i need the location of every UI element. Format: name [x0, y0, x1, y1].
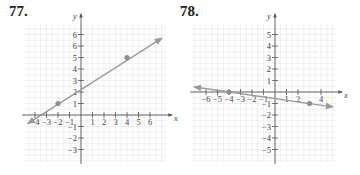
y-tick-label: 2: [267, 64, 271, 74]
y-tick-label: 3: [267, 53, 271, 63]
x-tick-label: −3: [42, 117, 51, 127]
grid: [24, 24, 166, 162]
x-axis-label: x: [343, 90, 348, 100]
x-tick-label: 4: [125, 117, 130, 127]
x-tick-label: 4: [319, 94, 324, 104]
y-tick-label: −3: [68, 145, 77, 155]
y-tick-label: 5: [267, 30, 271, 40]
y-tick-label: −2: [68, 133, 77, 143]
y-tick-label: 1: [73, 99, 77, 109]
y-tick-label: −3: [262, 122, 271, 132]
y-tick-label: 3: [73, 76, 77, 86]
y-tick-label: 6: [73, 30, 77, 40]
y-tick-label: −1: [262, 99, 271, 109]
y-tick-label: 5: [73, 53, 77, 63]
x-tick-label: 6: [148, 117, 152, 127]
data-point: [307, 101, 312, 106]
graph-line: [28, 38, 161, 123]
y-tick-label: −5: [262, 145, 271, 155]
y-axis-label: y: [266, 11, 271, 21]
y-tick-label: −2: [262, 110, 271, 120]
y-tick-label: −4: [262, 133, 272, 143]
y-tick-label: −1: [68, 122, 77, 132]
graph-77: xy−4−3−2−11234566654321−1−2−3: [22, 11, 178, 164]
x-tick-label: 1: [90, 117, 94, 127]
x-tick-label: 3: [113, 117, 117, 127]
data-point: [226, 89, 231, 94]
x-tick-label: −6: [201, 94, 210, 104]
x-tick-label: 5: [136, 117, 140, 127]
x-axis-label: x: [173, 113, 178, 123]
x-tick-label: −2: [53, 117, 62, 127]
data-point: [55, 101, 60, 106]
graphs-canvas: xy−4−3−2−11234566654321−1−2−3 xy−6−5−4−3…: [0, 0, 360, 175]
x-tick-label: −4: [224, 94, 234, 104]
y-tick-label: 1: [267, 76, 271, 86]
x-tick-label: 2: [102, 117, 106, 127]
y-axis-label: y: [72, 11, 77, 21]
graph-78: xy−6−5−4−3−2−112454321−1−2−3−4−5: [190, 11, 348, 164]
data-point: [124, 55, 129, 60]
y-tick-label: 6: [73, 41, 77, 51]
x-tick-label: −5: [213, 94, 222, 104]
x-tick-label: 1: [284, 94, 288, 104]
x-tick-label: −3: [236, 94, 245, 104]
